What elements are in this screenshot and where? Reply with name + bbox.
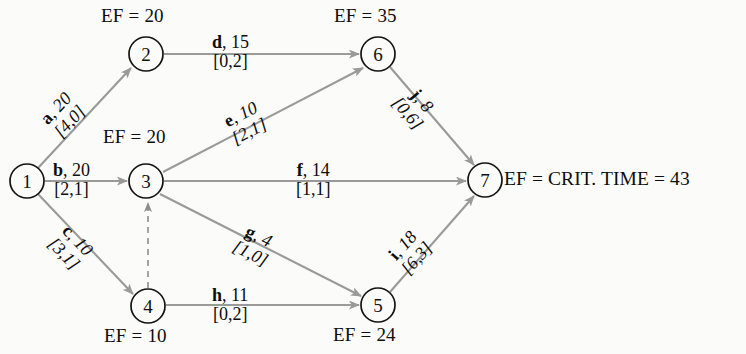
node-3-label: 3	[141, 171, 151, 192]
node-6-label: 6	[373, 44, 383, 65]
edge-h-activity: h	[212, 285, 222, 305]
network-diagram-canvas: 1 2 3 4 5 6 7 EF = 20 EF = 20 EF = 10 E	[0, 0, 746, 354]
node-7-label: 7	[480, 170, 490, 191]
edge-b-label: b, 20 [2,1]	[53, 161, 90, 200]
node-4-ef-label: EF = 10	[104, 326, 167, 347]
node-2-ef-label: EF = 20	[101, 6, 164, 27]
node-6[interactable]: 6	[361, 37, 395, 71]
node-1-label: 1	[22, 171, 32, 192]
node-5[interactable]: 5	[361, 288, 395, 322]
edge-h-duration: , 11	[222, 285, 248, 305]
edge-f-label: f, 14 [1,1]	[296, 161, 331, 200]
edge-d-label: d, 15 [0,2]	[212, 33, 249, 72]
node-1[interactable]: 1	[10, 164, 44, 198]
node-6-ef-label: EF = 35	[334, 6, 397, 27]
node-3[interactable]: 3	[129, 164, 163, 198]
node-2[interactable]: 2	[129, 37, 163, 71]
node-4-label: 4	[143, 296, 153, 317]
edge-d-duration: , 15	[222, 32, 249, 52]
node-5-label: 5	[373, 295, 383, 316]
edge-h-float: [0,2]	[212, 305, 248, 324]
edge-b-duration: , 20	[63, 160, 90, 180]
node-4[interactable]: 4	[131, 289, 165, 323]
node-7[interactable]: 7	[468, 163, 502, 197]
edge-f-float: [1,1]	[296, 180, 331, 199]
edge-f-duration: , 14	[303, 160, 330, 180]
edge-b-float: [2,1]	[53, 180, 90, 199]
node-3-ef-label: EF = 20	[103, 127, 166, 148]
node-2-label: 2	[141, 44, 151, 65]
critical-time-annotation: EF = CRIT. TIME = 43	[504, 168, 690, 189]
node-5-ef-label: EF = 24	[333, 325, 396, 346]
edge-h-label: h, 11 [0,2]	[212, 286, 248, 325]
edge-d-float: [0,2]	[212, 52, 249, 71]
edge-d-activity: d	[212, 32, 222, 52]
edge-b-activity: b	[53, 160, 63, 180]
